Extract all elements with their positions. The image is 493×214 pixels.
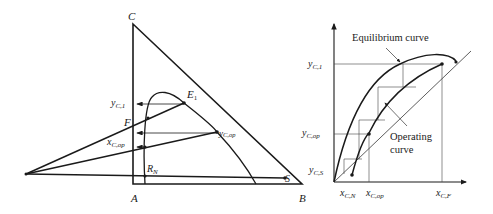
- equilibrium-curve: [334, 55, 456, 182]
- equilibrium-curve-label: Equilibrium curve: [352, 32, 429, 43]
- y-tick-cop: yC,op: [301, 127, 320, 140]
- x-tick-cf: xC,F: [435, 187, 452, 200]
- E1-label: E1: [186, 88, 198, 102]
- line-delta-yop: [26, 132, 217, 174]
- x-tick-cn: xC,N: [339, 187, 356, 200]
- guide-y-c1: [334, 64, 442, 182]
- y-tick-cs: yC,S: [308, 164, 324, 177]
- line-delta-E1: [26, 103, 184, 174]
- ternary-diagram: C A B E1 F S RN yC,1 yC,op xC,op: [25, 10, 307, 204]
- F-label: F: [123, 116, 131, 128]
- operating-curve-label-2: curve: [390, 144, 414, 155]
- y-tick-c1: yC,1: [307, 58, 322, 71]
- stage-construction-plot: Equilibrium curve Operating curve yC,1 y…: [301, 24, 471, 200]
- x-cop-label: xC,op: [106, 136, 125, 149]
- equilibrium-pointer: [386, 48, 400, 62]
- operating-curve: [352, 64, 442, 175]
- op-point-mid: [367, 132, 371, 136]
- eq-diag-intersect: [454, 60, 457, 63]
- vertex-A-label: A: [130, 192, 138, 204]
- y-c1-label: yC,1: [110, 97, 125, 110]
- operating-curve-label-1: Operating: [390, 131, 433, 142]
- S-label: S: [285, 173, 290, 184]
- binodal-curve: [144, 92, 256, 184]
- point-raffinate-intersect: [146, 116, 149, 119]
- x-tick-cop: xC,op: [365, 187, 384, 200]
- RN-label: RN: [146, 163, 158, 176]
- point-x-cop: [143, 145, 146, 148]
- op-point-end: [440, 62, 444, 66]
- point-RN: [143, 174, 146, 177]
- vertex-C-label: C: [128, 10, 136, 22]
- delta-point: [25, 173, 28, 176]
- y-cop-label: yC,op: [218, 128, 236, 138]
- op-point-start: [350, 173, 354, 177]
- point-E1: [182, 101, 186, 105]
- vertex-B-label: B: [299, 192, 306, 204]
- figure-canvas: C A B E1 F S RN yC,1 yC,op xC,op: [0, 0, 493, 214]
